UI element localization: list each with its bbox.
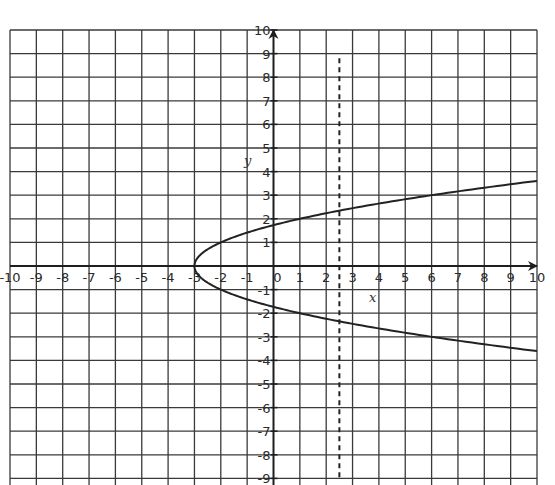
- y-tick-label: -1: [258, 283, 271, 298]
- y-tick-label: 10: [254, 23, 271, 38]
- x-tick-label: -8: [56, 270, 69, 285]
- x-tick-label: 0: [273, 270, 281, 285]
- x-axis-label: x: [369, 290, 377, 305]
- y-tick-label: 8: [262, 70, 270, 85]
- y-tick-label: 6: [262, 117, 270, 132]
- x-tick-label: -3: [188, 270, 201, 285]
- x-tick-label: 1: [296, 270, 304, 285]
- y-tick-label: -7: [258, 424, 271, 439]
- x-tick-label: -5: [135, 270, 148, 285]
- y-tick-label: 9: [262, 47, 270, 62]
- x-tick-label: -4: [162, 270, 175, 285]
- y-axis-label: y: [243, 153, 252, 168]
- x-tick-label: 9: [507, 270, 515, 285]
- x-tick-label: -6: [109, 270, 122, 285]
- x-tick-label: 4: [375, 270, 383, 285]
- x-tick-label: 8: [480, 270, 488, 285]
- x-tick-label: -1: [241, 270, 254, 285]
- x-tick-label: -9: [30, 270, 43, 285]
- x-tick-label: 6: [427, 270, 435, 285]
- x-tick-label: -10: [0, 270, 21, 285]
- y-tick-label: 3: [262, 188, 270, 203]
- y-tick-label: 2: [262, 212, 270, 227]
- y-tick-label: 5: [262, 141, 270, 156]
- y-tick-label: -9: [258, 471, 271, 485]
- y-tick-label: 7: [262, 94, 270, 109]
- coordinate-plane: -10-9-8-7-6-5-4-3-2-1012345678910 -9-8-7…: [0, 0, 555, 485]
- y-tick-label: 1: [262, 235, 270, 250]
- y-tick-label: -6: [258, 401, 271, 416]
- x-tick-label: 7: [454, 270, 462, 285]
- y-tick-label: -3: [258, 330, 271, 345]
- y-tick-label: 4: [262, 165, 270, 180]
- x-tick-label: 3: [348, 270, 356, 285]
- x-tick-label: 10: [529, 270, 546, 285]
- x-tick-label: -2: [214, 270, 227, 285]
- x-tick-label: 5: [401, 270, 409, 285]
- x-tick-label: -7: [83, 270, 96, 285]
- y-tick-label: -8: [258, 448, 271, 463]
- data-series: [194, 58, 537, 478]
- y-tick-label: -5: [258, 377, 271, 392]
- x-tick-label: 2: [322, 270, 330, 285]
- x-tick-labels: -10-9-8-7-6-5-4-3-2-1012345678910: [0, 270, 545, 285]
- y-tick-label: -2: [258, 306, 271, 321]
- y-tick-label: -4: [258, 353, 271, 368]
